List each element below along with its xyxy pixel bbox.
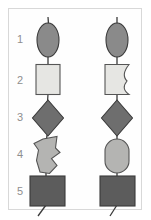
left-shape-row4-irregular-polygon	[34, 137, 60, 174]
right-shape-row1-ellipse	[106, 23, 128, 57]
row-label-3: 3	[17, 111, 23, 123]
figure-root: 1 2 3 4 5	[0, 0, 151, 220]
left-shape-row5-dark-square	[30, 176, 65, 206]
right-shape-row4-stadium	[105, 139, 129, 173]
left-shape-row2-rectangle	[36, 65, 60, 95]
left-chain-group	[30, 17, 65, 216]
connector-bottom	[110, 205, 117, 216]
row-label-2: 2	[17, 74, 23, 86]
left-shape-row3-diamond	[33, 100, 64, 136]
right-shape-row5-dark-square	[100, 176, 135, 206]
row-label-group: 1 2 3 4 5	[17, 33, 23, 197]
right-shape-row3-diamond	[102, 100, 133, 136]
row-label-1: 1	[17, 33, 23, 45]
right-chain-group	[100, 17, 135, 216]
right-shape-row2-wavy-rectangle	[105, 65, 129, 95]
row-label-5: 5	[17, 185, 23, 197]
connector-bottom	[38, 205, 46, 216]
left-shape-row1-ellipse	[37, 23, 59, 57]
row-label-4: 4	[17, 148, 23, 160]
shape-chain-diagram: 1 2 3 4 5	[0, 0, 151, 220]
